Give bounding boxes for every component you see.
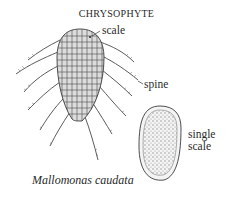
- label-spine: spine: [144, 79, 168, 90]
- cell-body: [50, 20, 110, 130]
- label-single-scale-line1: single: [188, 129, 215, 140]
- label-scale: scale: [102, 25, 125, 36]
- species-caption: Mallomonas caudata: [32, 173, 134, 188]
- label-single-scale-line2: scale: [188, 141, 211, 152]
- spine-leader: [138, 81, 143, 84]
- single-scale-drawing: [139, 106, 181, 180]
